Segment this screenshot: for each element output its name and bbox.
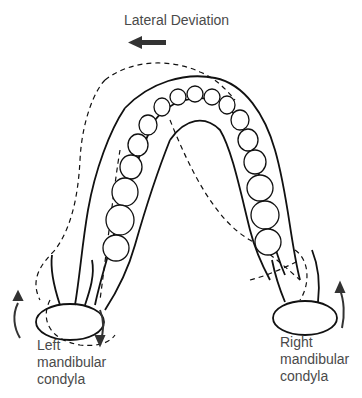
left-condyle-label: Left mandibular condyla <box>37 337 127 388</box>
left-label-line1: Left <box>37 337 127 354</box>
lateral-arrow-icon <box>128 36 166 49</box>
teeth <box>103 86 281 261</box>
left-label-line2: mandibular <box>37 354 127 371</box>
right-label-line1: Right <box>280 334 362 351</box>
left-label-line3: condyla <box>37 371 127 388</box>
right-label-line2: mandibular <box>280 351 362 368</box>
right-label-line3: condyla <box>280 368 362 385</box>
right-condyle-label: Right mandibular condyla <box>280 334 362 385</box>
mandible-outline <box>36 76 337 340</box>
